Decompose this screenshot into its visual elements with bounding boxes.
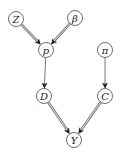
node-D: D (37, 89, 52, 104)
graph-canvas: ZβpπDCY (0, 0, 123, 156)
node-label: p (43, 45, 50, 56)
nodes: ZβpπDCY (9, 11, 113, 148)
node-label: π (101, 45, 109, 56)
node-beta: β (68, 11, 83, 26)
node-label: C (101, 91, 109, 102)
edge-p-to-D (44, 57, 45, 88)
node-label: D (39, 91, 48, 102)
edge-beta-to-p (51, 24, 70, 45)
node-Y: Y (67, 133, 82, 148)
edges (21, 24, 105, 134)
node-label: Z (12, 14, 21, 25)
edge-Z-to-p (21, 24, 40, 44)
edge-C-to-Y (79, 102, 101, 133)
node-C: C (98, 89, 113, 104)
node-pi: π (98, 43, 113, 58)
node-Z: Z (9, 12, 24, 27)
edge-D-to-Y (48, 102, 69, 133)
node-p: p (39, 43, 54, 58)
node-label: β (71, 13, 78, 24)
